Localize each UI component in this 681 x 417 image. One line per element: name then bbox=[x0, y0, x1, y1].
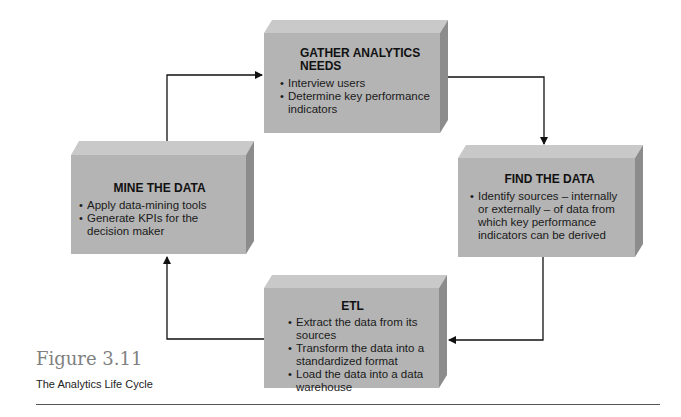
box-top-face bbox=[458, 145, 643, 158]
bullet-item: Load the data into a data warehouse bbox=[288, 368, 433, 394]
arrow-gather-to-find bbox=[448, 77, 544, 144]
box-top-face bbox=[264, 20, 448, 33]
bullet-item: Generate KPIs for the decision maker bbox=[79, 212, 240, 238]
arrow-mine-to-gather bbox=[167, 75, 262, 141]
box-front-face: FIND THE DATA Identify sources – interna… bbox=[458, 158, 635, 257]
step-title-line2: NEEDS bbox=[300, 60, 430, 73]
step-title: FIND THE DATA bbox=[470, 173, 629, 186]
bullet-item: Identify sources – internally or externa… bbox=[470, 190, 629, 242]
figure-label: Figure 3.11 bbox=[36, 348, 142, 369]
arrow-etl-to-mine bbox=[167, 257, 264, 339]
arrow-find-to-etl bbox=[449, 257, 543, 340]
box-side-face bbox=[246, 141, 254, 254]
bullet-item: Determine key performance indicators bbox=[280, 90, 430, 116]
step-bullets: Apply data-mining tools Generate KPIs fo… bbox=[79, 199, 240, 238]
box-front-face: ETL Extract the data from its sources Tr… bbox=[264, 288, 439, 388]
box-front-face: GATHER ANALYTICS NEEDS Interview users D… bbox=[264, 33, 440, 133]
bullet-item: Extract the data from its sources bbox=[288, 316, 433, 342]
box-top-face bbox=[71, 141, 254, 155]
box-side-face bbox=[440, 20, 448, 133]
step-title: GATHER ANALYTICS NEEDS bbox=[280, 47, 430, 73]
figure-caption: The Analytics Life Cycle bbox=[36, 378, 153, 390]
box-top-face bbox=[264, 275, 447, 288]
box-front-face: MINE THE DATA Apply data-mining tools Ge… bbox=[71, 155, 246, 254]
box-side-face bbox=[635, 145, 643, 257]
box-side-face bbox=[439, 275, 447, 388]
step-title: MINE THE DATA bbox=[79, 182, 240, 195]
step-bullets: Extract the data from its sources Transf… bbox=[288, 316, 433, 394]
step-title: ETL bbox=[288, 300, 433, 313]
bullet-item: Interview users bbox=[280, 77, 430, 90]
divider-rule bbox=[36, 404, 660, 405]
bullet-item: Apply data-mining tools bbox=[79, 199, 240, 212]
bullet-item: Transform the data into a standardized f… bbox=[288, 342, 433, 368]
step-bullets: Identify sources – internally or externa… bbox=[470, 190, 629, 242]
step-bullets: Interview users Determine key performanc… bbox=[280, 77, 430, 116]
